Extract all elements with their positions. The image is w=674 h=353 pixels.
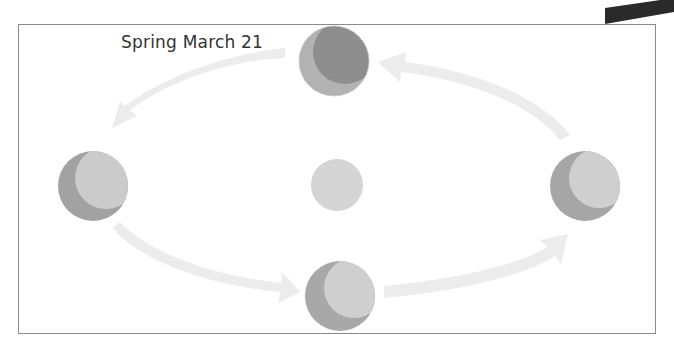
diagram-frame bbox=[18, 24, 656, 334]
corner-arrow-shape bbox=[605, 0, 674, 24]
spring-label: Spring March 21 bbox=[121, 32, 263, 52]
